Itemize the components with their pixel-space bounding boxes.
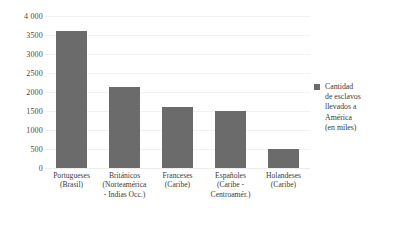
plot-area bbox=[45, 16, 310, 168]
x-axis-category-label: Franceses(Caribe) bbox=[151, 171, 204, 199]
legend-label-line: (en miles) bbox=[325, 123, 361, 133]
y-axis: 4 0003500300025002000150010005000 bbox=[0, 16, 43, 168]
legend-label: Cantidadde esclavosllevados aAmérica(en … bbox=[325, 82, 361, 133]
bar-slot bbox=[98, 16, 151, 168]
bar bbox=[268, 149, 299, 168]
x-axis-category-label: Españoles(Caribe -Centroamér.) bbox=[204, 171, 257, 199]
y-axis-tick-label: 2000 bbox=[26, 88, 43, 97]
x-axis-category-label: Portugueses(Brasil) bbox=[45, 171, 98, 199]
y-axis-tick-label: 3500 bbox=[26, 31, 43, 40]
bar-chart: 4 0003500300025002000150010005000 Portug… bbox=[0, 0, 395, 227]
x-axis-category-label: Británicos(Norteamérica- Indias Occ.) bbox=[98, 171, 151, 199]
bar bbox=[56, 31, 87, 168]
y-axis-tick-label: 500 bbox=[30, 145, 43, 154]
y-axis-tick-label: 2500 bbox=[26, 69, 43, 78]
x-axis-category-label: Holandeses(Caribe) bbox=[257, 171, 310, 199]
x-axis-labels: Portugueses(Brasil)Británicos(Norteaméri… bbox=[45, 171, 310, 199]
y-axis-tick-label: 1500 bbox=[26, 107, 43, 116]
legend: Cantidadde esclavosllevados aAmérica(en … bbox=[314, 82, 392, 133]
bar-slot bbox=[257, 16, 310, 168]
bar bbox=[109, 87, 140, 168]
bar bbox=[215, 111, 246, 168]
bar-series bbox=[45, 16, 310, 168]
bar bbox=[162, 107, 193, 168]
legend-swatch-icon bbox=[314, 84, 320, 90]
bar-slot bbox=[204, 16, 257, 168]
legend-label-line: América bbox=[325, 113, 361, 123]
y-axis-tick-label: 1000 bbox=[26, 126, 43, 135]
y-axis-tick-label: 0 bbox=[39, 164, 43, 173]
y-axis-tick-label: 3000 bbox=[26, 50, 43, 59]
legend-label-line: Cantidad bbox=[325, 82, 361, 92]
legend-label-line: de esclavos bbox=[325, 92, 361, 102]
bar-slot bbox=[45, 16, 98, 168]
gridline bbox=[45, 168, 310, 169]
legend-label-line: llevados a bbox=[325, 102, 361, 112]
bar-slot bbox=[151, 16, 204, 168]
y-axis-tick-label: 4 000 bbox=[24, 12, 43, 21]
